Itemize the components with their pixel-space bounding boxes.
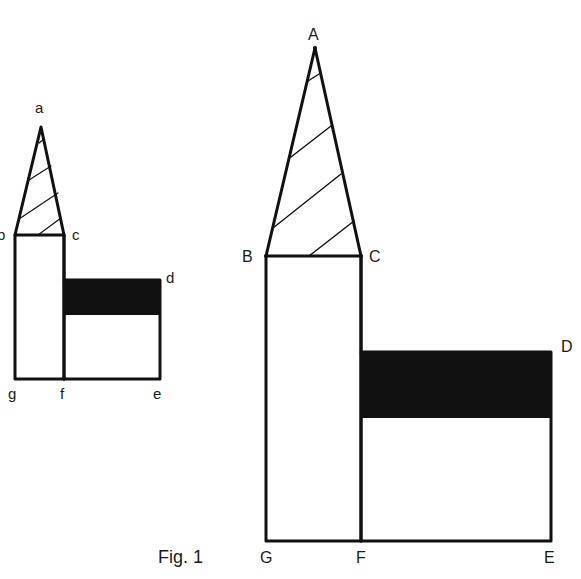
small-tower-outline [15, 235, 64, 379]
label-A: A [308, 26, 319, 43]
large-spire-triangle [266, 48, 361, 256]
label-E: E [544, 549, 555, 566]
label-g: g [8, 385, 16, 402]
label-c: c [72, 226, 80, 243]
label-f: f [60, 385, 65, 402]
small-shaded-band [64, 280, 160, 315]
large-figure [264, 46, 551, 541]
label-a: a [35, 99, 44, 116]
label-C: C [369, 248, 381, 265]
label-e: e [153, 385, 161, 402]
label-D: D [561, 338, 573, 355]
label-d: d [166, 269, 174, 286]
label-B: B [242, 248, 253, 265]
figure-canvas: a b c d e f g A B C D E F G Fig. 1 [0, 0, 581, 579]
label-G: G [260, 549, 272, 566]
label-F: F [356, 549, 366, 566]
large-tower-outline [266, 256, 361, 541]
small-figure [15, 127, 160, 379]
large-shaded-band [361, 352, 551, 418]
label-b: b [0, 226, 5, 243]
figure-caption: Fig. 1 [158, 547, 203, 567]
